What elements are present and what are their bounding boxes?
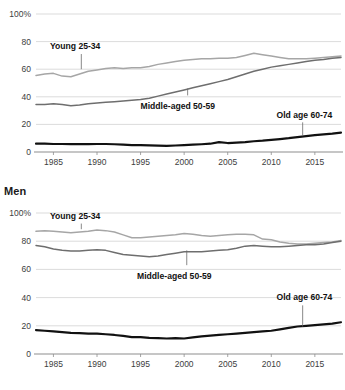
x-axis-tick-label: 1990	[88, 359, 107, 369]
x-axis-tick-label: 2005	[218, 157, 237, 167]
x-axis-tick-label: 2000	[175, 157, 194, 167]
x-axis-tick-label: 1985	[44, 359, 63, 369]
y-axis-tick-label: 80	[22, 236, 32, 246]
x-axis-tick-label: 1990	[88, 157, 107, 167]
panel-title-men: Men	[0, 185, 345, 199]
x-axis-tick-label: 2010	[262, 157, 281, 167]
series-line-young-25-34	[36, 53, 341, 76]
y-axis-tick-label: 40	[22, 293, 32, 303]
x-axis-tick-label: 2015	[305, 157, 324, 167]
y-axis-tick-label: 40	[22, 92, 32, 102]
series-annotation-label: Old age 60-74	[277, 110, 333, 120]
series-line-old-age-60-74	[36, 322, 341, 338]
y-axis-tick-label: 0	[26, 147, 31, 157]
x-axis-tick-label: 2010	[262, 359, 281, 369]
x-axis-tick-label: 2015	[305, 359, 324, 369]
y-axis-tick-label: 60	[22, 264, 32, 274]
x-axis-tick-label: 2005	[218, 359, 237, 369]
chart-panel-women: 020406080100%198519901995200020052010201…	[0, 0, 345, 180]
x-axis-tick-label: 1985	[44, 157, 63, 167]
series-line-middle-aged-50-59	[36, 57, 341, 105]
series-line-old-age-60-74	[36, 133, 341, 146]
y-axis-tick-label: 0	[26, 349, 31, 359]
line-chart-women: 020406080100%198519901995200020052010201…	[0, 0, 345, 180]
series-annotation-label: Middle-aged 50-59	[137, 271, 212, 281]
figure-root: 020406080100%198519901995200020052010201…	[0, 0, 345, 390]
y-axis-tick-label: 20	[22, 321, 32, 331]
y-axis-tick-label: 60	[22, 64, 32, 74]
series-line-young-25-34	[36, 230, 341, 244]
x-axis-tick-label: 1995	[131, 157, 150, 167]
x-axis-tick-label: 2000	[175, 359, 194, 369]
chart-panel-men: Men 020406080100%19851990199520002005201…	[0, 185, 345, 384]
y-axis-tick-label: 20	[22, 119, 32, 129]
y-axis-tick-label: 100%	[9, 208, 31, 218]
series-annotation-label: Old age 60-74	[277, 292, 333, 302]
y-axis-tick-label: 100%	[9, 9, 31, 19]
x-axis-tick-label: 1995	[131, 359, 150, 369]
series-annotation-label: Young 25-34	[50, 41, 101, 51]
y-axis-tick-label: 80	[22, 37, 32, 47]
series-annotation-label: Young 25-34	[50, 211, 101, 221]
series-annotation-label: Middle-aged 50-59	[141, 101, 216, 111]
line-chart-men: 020406080100%198519901995200020052010201…	[0, 199, 345, 384]
